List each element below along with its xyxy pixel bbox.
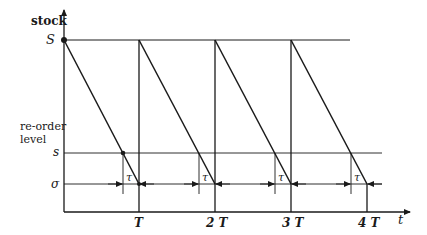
inventory-sawtooth-diagram: τ τ τ τ stock t S re-order level s σ T 2…	[0, 0, 427, 235]
period-label-3T: 3 T	[282, 216, 305, 230]
depletion-cycle-2	[139, 40, 215, 184]
period-label-4T: 4 T	[358, 216, 381, 230]
reorder-level-title-line2: level	[20, 133, 47, 146]
max-stock-point	[61, 37, 67, 43]
reorder-point-lines	[123, 153, 351, 194]
level-label-sigma: σ	[51, 177, 60, 191]
tau-label-3: τ	[278, 171, 285, 184]
depletion-cycle-4	[291, 40, 367, 184]
depletion-cycle-1	[64, 40, 139, 184]
y-axis-label-stock: stock	[31, 14, 68, 28]
x-axis-label-t: t	[398, 212, 404, 227]
period-labels: T 2 T 3 T 4 T	[134, 216, 381, 230]
period-label-2T: 2 T	[205, 216, 229, 230]
reorder-level-title-line1: re-order	[20, 120, 67, 133]
period-label-T: T	[134, 216, 144, 230]
level-label-s: s	[53, 145, 59, 159]
period-lines	[139, 40, 367, 212]
lead-time-labels: τ τ τ τ	[126, 171, 361, 184]
tau-label-1: τ	[126, 171, 133, 184]
tau-label-2: τ	[202, 171, 209, 184]
reorder-point-1	[121, 151, 126, 156]
tau-label-4: τ	[354, 171, 361, 184]
level-label-S: S	[46, 32, 55, 47]
depletion-cycle-3	[215, 40, 291, 184]
axis-labels: stock t S re-order level s σ	[20, 14, 404, 227]
level-lines	[64, 40, 382, 184]
